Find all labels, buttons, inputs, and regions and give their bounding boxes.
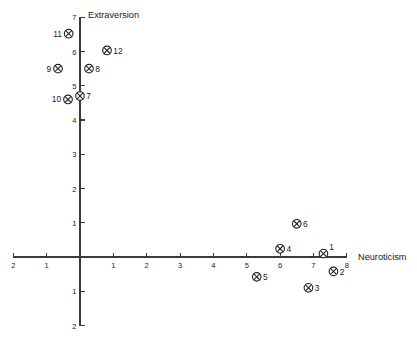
axis-layer (13, 17, 347, 325)
data-point[interactable]: 4 (273, 241, 292, 256)
scatter-plot-figure: 2112345678211234567 123456789101112 Neur… (0, 0, 417, 343)
x-tick-label: 4 (211, 261, 215, 270)
y-axis-title: Extraversion (88, 10, 139, 20)
y-tick-label: 3 (72, 150, 76, 159)
data-point[interactable]: 12 (100, 43, 123, 58)
data-point-hit-area[interactable] (326, 264, 341, 279)
x-tick-label: 1 (45, 261, 49, 270)
data-point-label: 10 (52, 94, 62, 104)
data-point-label: 11 (53, 29, 62, 39)
data-point-hit-area[interactable] (61, 26, 76, 41)
y-tick-label: 1 (72, 219, 76, 228)
x-axis-title: Neuroticism (358, 252, 407, 262)
data-point-hit-area[interactable] (61, 92, 76, 107)
x-tick-label: 8 (345, 261, 349, 270)
data-point[interactable]: 5 (249, 270, 268, 285)
x-tick-label: 6 (278, 261, 282, 270)
x-tick-label: 7 (311, 261, 315, 270)
y-tick-label: 4 (72, 116, 76, 125)
data-point[interactable]: 11 (53, 26, 76, 41)
data-point-hit-area[interactable] (289, 216, 304, 231)
tick-label-layer: 2112345678211234567 (11, 13, 349, 330)
plot-canvas: 2112345678211234567 123456789101112 Neur… (0, 0, 417, 343)
data-point[interactable]: 3 (301, 281, 320, 296)
y-tick-label: 7 (72, 13, 76, 22)
data-point-hit-area[interactable] (51, 61, 66, 76)
x-tick-label: 3 (178, 261, 182, 270)
x-tick-label: 1 (111, 261, 115, 270)
y-tick-label: 2 (72, 185, 76, 194)
data-point[interactable]: 10 (52, 92, 75, 107)
data-point-hit-area[interactable] (301, 281, 316, 296)
data-point[interactable]: 9 (47, 61, 66, 76)
data-point[interactable]: 7 (73, 89, 92, 104)
tick-layer (13, 17, 347, 325)
data-point[interactable]: 1 (316, 242, 334, 261)
data-point-hit-area[interactable] (273, 241, 288, 256)
data-point[interactable]: 6 (289, 216, 308, 231)
x-tick-label: 2 (11, 261, 15, 270)
data-point-hit-area[interactable] (316, 246, 331, 261)
x-tick-label: 2 (145, 261, 149, 270)
data-point-hit-area[interactable] (82, 61, 97, 76)
y-tick-label: 2 (72, 322, 76, 331)
data-point-hit-area[interactable] (249, 270, 264, 285)
data-point-layer: 123456789101112 (47, 26, 345, 295)
data-point[interactable]: 2 (326, 264, 345, 279)
x-tick-label: 5 (245, 261, 249, 270)
data-point-label: 12 (113, 46, 123, 56)
data-point-hit-area[interactable] (100, 43, 115, 58)
data-point[interactable]: 8 (82, 61, 101, 76)
y-tick-label: 5 (72, 82, 76, 91)
y-tick-label: 6 (72, 48, 76, 57)
y-tick-label: 1 (72, 287, 76, 296)
